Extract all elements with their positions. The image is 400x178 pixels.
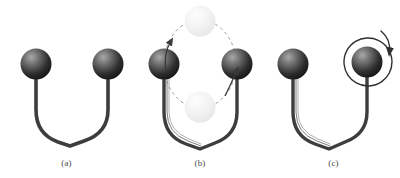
panel-a-label: (a) [0, 158, 133, 168]
panel-c-label: (c) [267, 158, 400, 168]
ghost-mass-bottom-b [185, 92, 216, 123]
panel-a: (a) [0, 0, 133, 178]
left-mass-b [149, 49, 180, 80]
panel-c-graphic [267, 0, 400, 178]
panel-b-label: (b) [133, 158, 267, 168]
panel-b-graphic [133, 0, 267, 178]
left-mass-c [278, 49, 309, 80]
cable-c [293, 66, 367, 149]
ghost-mass-top-b [185, 6, 216, 37]
panel-b: (b) [133, 0, 267, 178]
cable-a [36, 66, 108, 146]
right-mass-a [93, 49, 124, 80]
panel-c: (c) [267, 0, 400, 178]
panel-a-graphic [0, 0, 133, 178]
right-mass-b [222, 49, 253, 80]
left-mass-a [21, 49, 52, 80]
right-mass-c [352, 47, 383, 78]
figure-root: (a) [0, 0, 400, 178]
